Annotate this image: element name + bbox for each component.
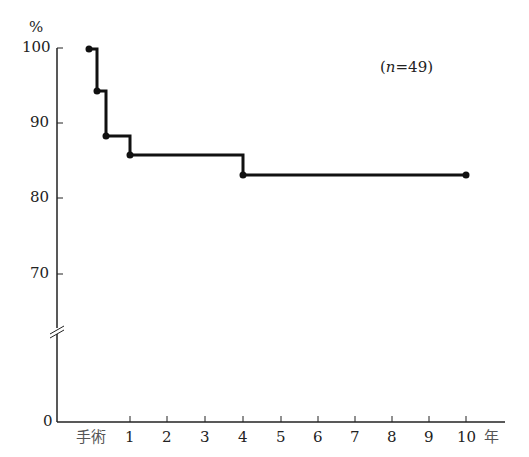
x-tick-label-2: 2 — [162, 430, 172, 445]
y-tick-label-100: 100 — [22, 40, 51, 55]
n-value: =49 — [396, 58, 428, 76]
n-variable: n — [386, 58, 396, 76]
y-axis-unit: % — [29, 20, 43, 35]
paren-close: ) — [427, 58, 433, 76]
x-tick-label-8: 8 — [387, 430, 397, 445]
y-tick-label-0: 0 — [43, 414, 53, 429]
y-tick-label-70: 70 — [30, 266, 49, 281]
x-tick-label-1: 1 — [125, 430, 135, 445]
x-axis-unit: 年 — [484, 430, 499, 445]
y-tick-label-80: 80 — [30, 190, 49, 205]
chart-canvas — [0, 0, 529, 457]
sample-size-annotation: (n=49) — [380, 60, 433, 75]
x-tick-label-10: 10 — [457, 430, 476, 445]
y-tick-label-90: 90 — [30, 115, 49, 130]
x-tick-label-7: 7 — [350, 430, 360, 445]
x-origin-label: 手術 — [76, 430, 106, 445]
x-tick-label-5: 5 — [276, 430, 286, 445]
x-tick-label-4: 4 — [238, 430, 248, 445]
x-tick-label-9: 9 — [424, 430, 434, 445]
x-tick-label-3: 3 — [200, 430, 210, 445]
x-ticks — [130, 416, 466, 422]
x-tick-label-6: 6 — [313, 430, 323, 445]
